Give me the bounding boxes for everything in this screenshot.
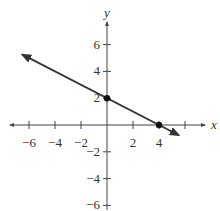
intercept-point <box>104 95 110 101</box>
data-line <box>23 55 179 135</box>
y-axis-label: y <box>102 5 110 20</box>
line-series <box>23 55 179 135</box>
y-tick-label: −4 <box>86 171 100 186</box>
axes: xy <box>10 5 217 210</box>
x-tick-label: 2 <box>130 135 137 150</box>
x-tick-label: 4 <box>156 135 163 150</box>
coordinate-plane: xy −6−4−224642−2−4−6 <box>0 0 220 211</box>
y-tick-label: 4 <box>94 63 101 78</box>
x-tick-label: −4 <box>48 135 62 150</box>
intercept-point <box>156 122 162 128</box>
y-tick-label: 6 <box>94 37 101 52</box>
x-tick-label: −6 <box>22 135 36 150</box>
tick-labels: −6−4−224642−2−4−6 <box>22 37 163 211</box>
y-tick-label: −2 <box>86 144 100 159</box>
y-tick-label: −6 <box>86 197 100 211</box>
x-axis-label: x <box>210 117 217 132</box>
